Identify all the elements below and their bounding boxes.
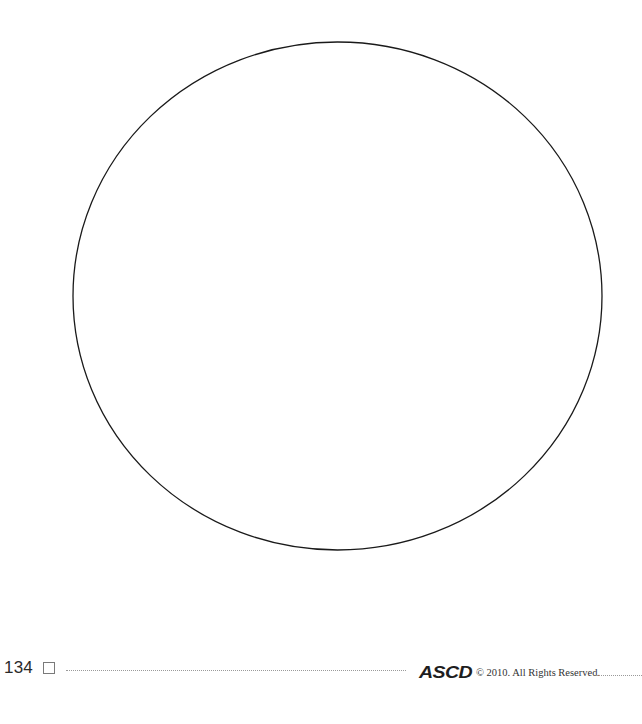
ascd-logo: ASCD [419, 664, 472, 681]
page-number: 134 [4, 659, 33, 676]
footer-trailing-divider [596, 675, 642, 676]
worksheet-figure [0, 0, 642, 724]
checkbox-square-icon [43, 662, 55, 674]
footer-dotted-divider [66, 670, 406, 671]
large-circle-shape [73, 42, 602, 550]
copyright-notice: © 2010. All Rights Reserved. [476, 667, 600, 679]
